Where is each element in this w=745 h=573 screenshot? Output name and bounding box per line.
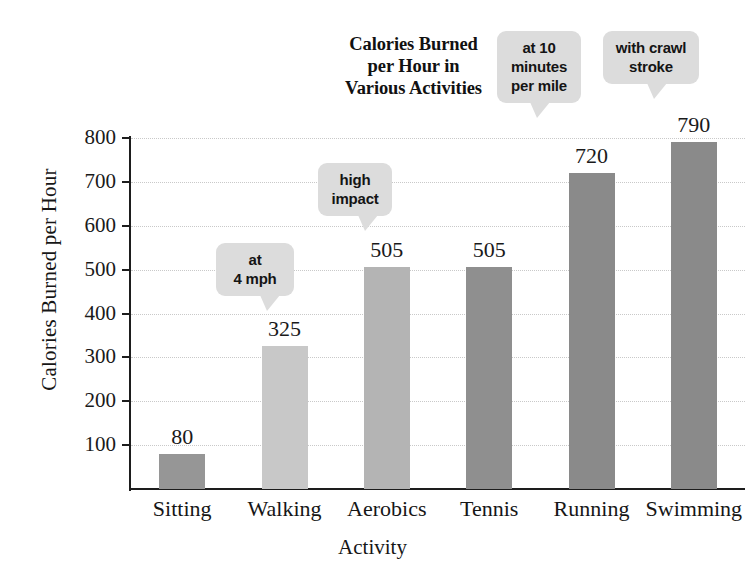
bar-chart: Calories Burned per Hour in Various Acti… (0, 0, 745, 573)
y-axis-tick-label: 100 (56, 434, 116, 455)
y-axis-tick-label: 600 (56, 215, 116, 236)
bar-swimming (671, 142, 717, 489)
bar-fill (569, 173, 615, 489)
bar-value-label: 505 (449, 239, 529, 261)
bar-value-label: 720 (552, 145, 632, 167)
chart-title: Calories Burned per Hour in Various Acti… (306, 33, 521, 99)
category-label-swimming: Swimming (634, 497, 745, 521)
callout-line: stroke (612, 57, 690, 76)
callout-line: at (225, 250, 285, 269)
callout-line: high (327, 170, 383, 189)
y-axis-tick (122, 137, 131, 139)
callout-tail-icon (260, 295, 280, 311)
callout-line: impact (327, 189, 383, 208)
bar-walking (262, 346, 308, 489)
y-axis-tick (122, 313, 131, 315)
bar-aerobics (364, 267, 410, 489)
bar-fill (262, 346, 308, 489)
callout-tail-icon (647, 83, 667, 99)
plot-area (131, 138, 745, 489)
y-axis-tick-label: 400 (56, 303, 116, 324)
callout-tail-icon (530, 102, 550, 118)
bar-running (569, 173, 615, 489)
bar-value-label: 325 (245, 318, 325, 340)
bar-fill (671, 142, 717, 489)
bar-value-label: 790 (654, 114, 734, 136)
callout-aerobics: highimpact (318, 163, 392, 216)
y-axis-tick-label: 700 (56, 171, 116, 192)
bar-value-label: 80 (142, 426, 222, 448)
chart-title-line-1: Calories Burned (306, 33, 521, 55)
bar-fill (364, 267, 410, 489)
y-axis-tick-label: 200 (56, 390, 116, 411)
bar-sitting (159, 454, 205, 489)
callout-line: per mile (506, 76, 572, 95)
callout-line: minutes (506, 57, 572, 76)
callout-swimming: with crawlstroke (603, 31, 699, 84)
bar-fill (466, 267, 512, 489)
y-axis-tick (122, 444, 131, 446)
callout-running: at 10minutesper mile (497, 31, 581, 103)
chart-title-line-2: per Hour in (306, 55, 521, 77)
y-axis-tick (122, 181, 131, 183)
callout-line: at 10 (506, 38, 572, 57)
y-axis-tick-label: 500 (56, 259, 116, 280)
callout-walking: at4 mph (216, 243, 294, 296)
bar-fill (159, 454, 205, 489)
y-axis-tick (122, 225, 131, 227)
callout-line: 4 mph (225, 269, 285, 288)
callout-tail-icon (358, 215, 378, 231)
bar-tennis (466, 267, 512, 489)
y-axis-tick-label: 300 (56, 346, 116, 367)
callout-line: with crawl (612, 38, 690, 57)
chart-title-line-3: Various Activities (306, 77, 521, 99)
bar-value-label: 505 (347, 239, 427, 261)
y-axis-tick (122, 269, 131, 271)
y-axis-tick (122, 356, 131, 358)
y-axis-tick-label: 800 (56, 127, 116, 148)
x-axis-title: Activity (0, 535, 745, 560)
y-axis-tick (122, 400, 131, 402)
